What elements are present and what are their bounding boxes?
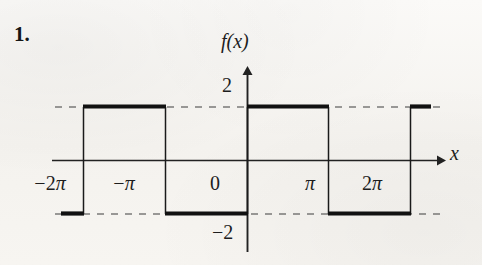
x-axis-arrowhead <box>437 156 446 166</box>
square-wave-plot <box>0 0 482 265</box>
y-axis-arrowhead <box>243 66 253 75</box>
figure-page: 1. f(x) x 2 −2 −2π −π 0 π 2π <box>0 0 482 265</box>
